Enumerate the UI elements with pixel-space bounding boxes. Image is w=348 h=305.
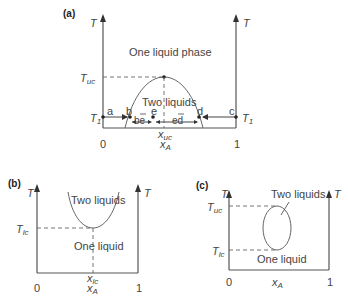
- panel-b-tlc-label: Tlc: [16, 223, 29, 237]
- panel-c-tlc-label: Tlc: [212, 245, 225, 259]
- panel-c-tuc-label: Tuc: [207, 201, 222, 215]
- panel-b: (b) T T Two liquids Tlc One liquid xlc x…: [8, 178, 152, 296]
- panel-a: (a) T T One liquid phase Tuc Two liquids: [63, 8, 253, 152]
- panel-b-right-axis-label: T: [144, 187, 152, 199]
- panel-b-region-two-liquids: Two liquids: [71, 194, 126, 206]
- panel-a-point-c: [234, 115, 238, 119]
- panel-a-point-a: [101, 115, 105, 119]
- panel-c-region-one-liquid: One liquid: [257, 253, 307, 265]
- panel-a-be-right-arrow-icon: [148, 120, 152, 124]
- panel-c-right-axis-label: T: [334, 188, 342, 200]
- panel-a-segment-be-label: be: [134, 115, 146, 126]
- panel-b-right-arrow-icon: [135, 184, 141, 192]
- panel-a-t1-right-label: T1: [242, 112, 253, 126]
- panel-a-ed-right-arrow-icon: [194, 120, 198, 124]
- panel-b-region-one-liquid: One liquid: [74, 240, 124, 252]
- panel-b-x-tick-1: 1: [136, 282, 142, 294]
- panel-a-label-b: b: [126, 105, 132, 117]
- panel-a-x-tick-0: 0: [100, 138, 106, 150]
- panel-a-right-axis-label: T: [243, 17, 251, 29]
- panel-c-xa-label: xA: [271, 276, 283, 290]
- phase-diagram-figure: (a) T T One liquid phase Tuc Two liquids: [0, 0, 348, 305]
- panel-b-left-axis-label: T: [27, 187, 35, 199]
- panel-a-x-tick-1: 1: [234, 138, 240, 150]
- panel-c-x-tick-1: 1: [327, 276, 333, 288]
- panel-b-label: (b): [8, 178, 21, 189]
- panel-a-t1-left-label: T1: [90, 112, 101, 126]
- panel-c-right-arrow-icon: [326, 190, 332, 198]
- panel-a-left-arrow-icon: [100, 14, 106, 22]
- panel-a-region-one-liquid-phase: One liquid phase: [129, 46, 212, 58]
- panel-c-x-tick-0: 0: [226, 276, 232, 288]
- panel-a-tuc-label: Tuc: [80, 72, 95, 86]
- panel-a-segment-ed-label: ed: [172, 115, 183, 126]
- panel-b-left-arrow-icon: [34, 184, 40, 192]
- panel-a-label-a: a: [107, 105, 114, 117]
- panel-a-ed-left-arrow-icon: [156, 120, 160, 124]
- panel-c-region-two-liquids: Two liquids: [271, 188, 326, 200]
- panel-a-left-axis-label: T: [90, 17, 98, 29]
- panel-a-label-c: c: [229, 105, 235, 117]
- panel-a-right-arrow-icon: [233, 14, 239, 22]
- panel-c: (c) T T Tuc Tlc Two liquids One liquid x…: [196, 180, 342, 290]
- panel-c-label: (c): [196, 180, 208, 191]
- panel-b-x-tick-0: 0: [34, 282, 40, 294]
- panel-a-label-e: e: [151, 105, 157, 117]
- panel-c-closed-loop-curve: [263, 206, 291, 250]
- panel-a-label-d: d: [197, 105, 203, 117]
- panel-a-label: (a): [63, 8, 75, 19]
